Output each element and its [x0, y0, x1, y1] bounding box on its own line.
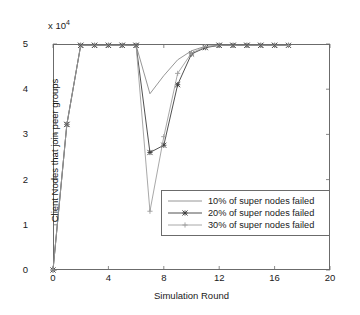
legend-line-sample: [166, 207, 204, 219]
legend-item-2[interactable]: 30% of super nodes failed: [166, 219, 324, 231]
y-tick-label: 2: [0, 175, 28, 185]
legend-line-sample: [166, 219, 204, 231]
legend-line-sample: [166, 195, 204, 207]
x-tick-label: 8: [149, 273, 179, 283]
chart-legend: 10% of super nodes failed20% of super no…: [161, 190, 330, 236]
x-tick-label: 12: [204, 273, 234, 283]
y-axis-title: Client Nodes that join peer groups: [49, 36, 60, 266]
data-series-group: [50, 43, 291, 273]
legend-label: 30% of super nodes failed: [204, 219, 314, 231]
axis-ticks: [53, 44, 330, 270]
x-tick-label: 16: [260, 273, 290, 283]
chart-plot: [53, 44, 330, 270]
y-tick-label: 1: [0, 220, 28, 230]
y-axis-multiplier: x 104: [48, 17, 70, 31]
series-line-0: [53, 45, 288, 270]
figure-canvas: x 104 012345 048121620 Simulation Round …: [0, 0, 360, 315]
legend-item-0[interactable]: 10% of super nodes failed: [166, 195, 324, 207]
series-line-1: [50, 43, 291, 273]
y-multiplier-exponent: 4: [66, 19, 70, 26]
series-line-2: [50, 43, 291, 273]
y-tick-label: 0: [0, 265, 28, 275]
legend-item-1[interactable]: 20% of super nodes failed: [166, 207, 324, 219]
y-tick-label: 5: [0, 39, 28, 49]
y-tick-label: 4: [0, 84, 28, 94]
y-tick-label: 3: [0, 129, 28, 139]
y-multiplier-base: x 10: [48, 20, 66, 31]
legend-label: 20% of super nodes failed: [204, 207, 314, 219]
x-tick-label: 4: [93, 273, 123, 283]
x-axis-title: Simulation Round: [53, 290, 330, 301]
x-tick-label: 0: [38, 273, 68, 283]
x-tick-label: 20: [315, 273, 345, 283]
legend-label: 10% of super nodes failed: [204, 195, 314, 207]
